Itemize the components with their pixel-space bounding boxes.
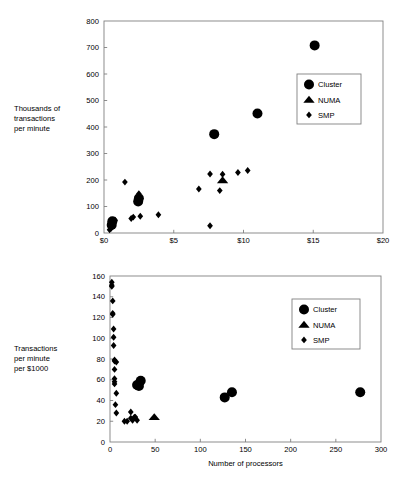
x-tick-label: $0 <box>100 236 108 245</box>
series-smp <box>107 167 251 233</box>
y-tick-label: 0 <box>101 438 105 447</box>
data-point-smp <box>110 297 116 304</box>
x-tick-label: 100 <box>194 445 207 454</box>
x-tick-label: 250 <box>329 445 342 454</box>
x-tick-label: 200 <box>284 445 297 454</box>
x-tick-label: $20 <box>377 236 390 245</box>
data-point-cluster <box>107 216 117 226</box>
data-point-cluster <box>132 380 142 390</box>
y-tick-label: 160 <box>92 272 105 281</box>
data-point-cluster <box>355 387 365 397</box>
data-point-smp <box>217 187 223 194</box>
legend-label-cluster: Cluster <box>318 80 343 89</box>
data-point-numa <box>217 176 228 183</box>
data-point-smp <box>113 401 119 408</box>
legend-label-cluster: Cluster <box>313 305 338 314</box>
legend-marker-circle-icon <box>299 305 309 315</box>
y-tick-label: 40 <box>97 396 105 405</box>
series-cluster <box>107 40 320 230</box>
series-smp <box>109 279 140 425</box>
series-numa <box>217 176 228 183</box>
data-point-smp <box>128 408 134 415</box>
x-tick-label: $10 <box>237 236 250 245</box>
y-tick-label: 300 <box>86 149 99 158</box>
data-point-smp <box>113 390 119 397</box>
series-numa <box>149 413 160 420</box>
y-tick-label: 100 <box>86 202 99 211</box>
data-point-numa <box>149 413 160 420</box>
chart-bottom: Transactions per minute per $1000 020406… <box>0 252 405 492</box>
legend-label-numa: NUMA <box>318 96 341 105</box>
legend: ClusterNUMASMP <box>292 299 360 349</box>
data-point-smp <box>113 409 119 416</box>
x-axis-title: Number of processors <box>208 459 283 468</box>
y-tick-label: 60 <box>97 375 105 384</box>
data-point-cluster <box>310 40 320 50</box>
y-tick-label: 0 <box>95 229 99 238</box>
data-point-cluster <box>220 392 230 402</box>
y-tick-label: 100 <box>92 334 105 343</box>
y-tick-label: 20 <box>97 417 105 426</box>
legend-label-numa: NUMA <box>313 321 336 330</box>
data-point-smp <box>156 211 162 218</box>
data-point-smp <box>111 342 117 349</box>
x-tick-label: 0 <box>108 445 112 454</box>
data-point-smp <box>137 213 143 220</box>
legend: ClusterNUMASMP <box>297 74 361 124</box>
chart-top: Thousands of transactions per minute 010… <box>0 0 405 252</box>
y-tick-label: 140 <box>92 292 105 301</box>
series-cluster <box>132 376 365 403</box>
y-tick-label: 120 <box>92 313 105 322</box>
data-point-cluster <box>133 196 143 206</box>
x-tick-label: 150 <box>239 445 252 454</box>
data-point-smp <box>245 167 251 174</box>
data-point-smp <box>196 186 202 193</box>
x-tick-label: $15 <box>307 236 320 245</box>
data-point-smp <box>207 170 213 177</box>
y-axis-label-bottom: Transactions per minute per $1000 <box>14 344 100 375</box>
data-point-cluster <box>252 108 262 118</box>
data-point-smp <box>112 366 118 373</box>
scatter-plot-figure: Thousands of transactions per minute 010… <box>0 0 405 492</box>
y-tick-label: 700 <box>86 43 99 52</box>
data-point-smp <box>235 169 241 176</box>
legend-label-smp: SMP <box>313 336 329 345</box>
y-tick-label: 200 <box>86 176 99 185</box>
data-point-smp <box>111 325 117 332</box>
y-tick-label: 600 <box>86 70 99 79</box>
y-tick-label: 800 <box>86 17 99 26</box>
legend-marker-circle-icon <box>304 80 314 90</box>
x-tick-label: 50 <box>151 445 159 454</box>
data-point-smp <box>207 222 213 229</box>
data-point-smp <box>111 334 117 341</box>
y-axis-label-top: Thousands of transactions per minute <box>14 104 100 135</box>
data-point-cluster <box>209 129 219 139</box>
data-point-smp <box>110 311 116 318</box>
x-tick-label: $5 <box>170 236 178 245</box>
legend-label-smp: SMP <box>318 111 334 120</box>
data-point-smp <box>122 179 128 186</box>
x-tick-label: 300 <box>375 445 388 454</box>
